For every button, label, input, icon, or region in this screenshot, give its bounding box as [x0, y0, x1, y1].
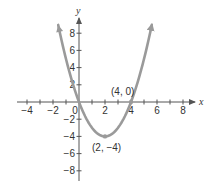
x-axis-label: x: [198, 96, 204, 107]
y-tick-label: 8: [69, 28, 75, 39]
y-axis-label: y: [75, 5, 81, 16]
y-tick-label: 6: [69, 45, 75, 56]
x-tick-label: −2: [47, 105, 59, 116]
parabola-graph: −4−202468 8642−2−4−6−8 x y (4, 0) (2, −4…: [0, 0, 219, 194]
x-tick-label: 8: [180, 105, 186, 116]
vertex-label: (2, −4): [92, 142, 121, 153]
vertex-point: [103, 134, 107, 138]
root-point: [129, 100, 133, 104]
y-tick-label: −4: [64, 131, 76, 142]
root-label: (4, 0): [111, 86, 134, 97]
y-tick-label: −6: [64, 148, 76, 159]
x-tick-label: −4: [21, 105, 33, 116]
y-tick-label: −8: [64, 165, 76, 176]
x-tick-label: 2: [102, 105, 108, 116]
y-tick-label: −2: [64, 114, 76, 125]
x-tick-label: 6: [154, 105, 160, 116]
